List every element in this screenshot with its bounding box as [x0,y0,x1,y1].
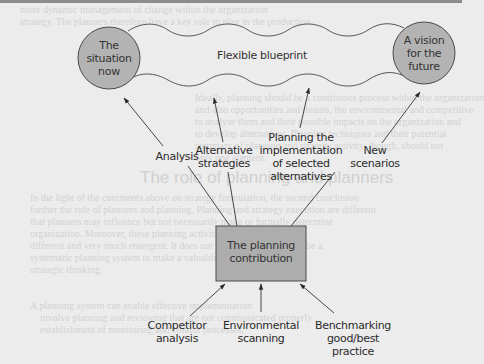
arrow-planning-implementation [300,88,309,128]
flexible-blueprint-label: Flexible blueprint [217,49,307,62]
output-impl-line2: implementation [260,144,343,157]
arrow-new-scenarios [382,92,420,143]
situation-now-label: The situation now [81,39,137,78]
output-planning-implementation: Planning the implementation of selected … [260,131,343,183]
arrow-competitor-analysis [190,284,225,316]
output-impl-line4: alternatives [260,170,343,183]
arrow-benchmarking [300,284,334,313]
input-comp-line2: analysis [148,332,207,345]
output-alternative-strategies: Alternative strategies [195,144,252,170]
input-bench-line3: practice [315,345,391,358]
output-new-scenarios: New scenarios [350,144,400,170]
output-impl-line3: of selected [260,157,343,170]
output-analysis: Analysis [156,150,199,163]
input-bench-line1: Benchmarking [315,319,391,332]
output-impl-line1: Planning the [260,131,343,144]
input-env-line2: scanning [223,332,299,345]
link-box-analysis [188,166,230,226]
output-alt-line2: strategies [195,157,252,170]
planning-contribution-label: The planning contribution [226,239,296,265]
arrow-analysis [124,98,163,146]
input-env-line1: Environmental [223,319,299,332]
input-bench-line2: good/best [315,332,391,345]
output-new-line1: New [350,144,400,157]
output-analysis-text: Analysis [156,150,199,163]
input-comp-line1: Competitor [148,319,207,332]
future-vision-label: A vision for the future [402,34,446,73]
arrow-alternative-strategies [214,98,223,142]
output-new-line2: scenarios [350,157,400,170]
output-alt-line1: Alternative [195,144,252,157]
link-box-alternatives [228,172,237,226]
input-environmental-scanning: Environmental scanning [223,319,299,345]
input-benchmarking: Benchmarking good/best practice [315,319,391,358]
input-competitor-analysis: Competitor analysis [148,319,207,345]
